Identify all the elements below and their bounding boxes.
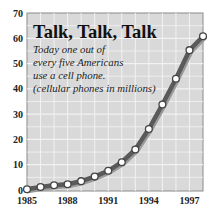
data-point-marker (24, 186, 31, 193)
y-tick-label: 70 (13, 8, 23, 19)
data-point-marker (78, 178, 85, 185)
y-tick-label: 10 (13, 159, 23, 170)
y-tick-label: 0 (18, 185, 23, 196)
data-point-marker (91, 173, 98, 180)
x-tick-label: 1994 (139, 195, 159, 206)
y-tick-label: 30 (13, 109, 23, 120)
subtitle-line: use a cell phone. (33, 69, 106, 81)
data-point-marker (64, 181, 71, 188)
x-tick-label: 1997 (179, 195, 199, 206)
subtitle-line: every five Americans (33, 56, 123, 68)
y-tick-label: 20 (13, 134, 23, 145)
data-point-marker (186, 47, 193, 54)
y-tick-label: 60 (13, 33, 23, 44)
data-point-marker (118, 159, 125, 166)
x-tick-label: 1991 (98, 195, 118, 206)
data-point-marker (37, 184, 44, 191)
x-axis-ticks: 19851988199119941997 (17, 195, 199, 206)
y-axis-ticks: 010203040506070 (13, 8, 23, 196)
chart-title: Talk, Talk, Talk (33, 22, 158, 42)
data-point-marker (132, 146, 139, 153)
x-tick-label: 1985 (17, 195, 37, 206)
data-point-marker (51, 182, 58, 189)
x-tick-label: 1988 (58, 195, 78, 206)
line-chart: 010203040506070 19851988199119941997 Tal… (0, 0, 216, 215)
y-tick-label: 50 (13, 58, 23, 69)
data-point-marker (159, 101, 166, 108)
data-point-marker (145, 126, 152, 133)
data-point-marker (200, 33, 207, 40)
subtitle-line: (cellular phones in millions) (33, 82, 156, 95)
data-point-marker (173, 75, 180, 82)
subtitle-line: Today one out of (33, 43, 107, 55)
y-tick-label: 40 (13, 83, 23, 94)
data-point-marker (105, 167, 112, 174)
